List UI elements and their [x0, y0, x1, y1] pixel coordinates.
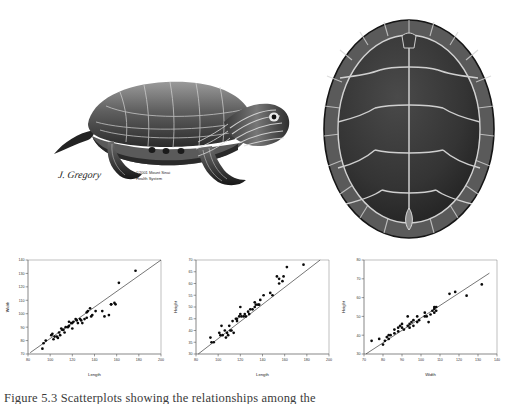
scatterplot-width-vs-length: 7080901001101201301408010012014016018020… — [2, 252, 169, 378]
data-point — [218, 332, 221, 335]
x-tick-label: 120 — [237, 358, 243, 362]
data-point — [403, 328, 406, 331]
data-point — [393, 332, 396, 335]
data-point — [52, 338, 55, 341]
data-point — [57, 337, 60, 340]
data-point — [227, 334, 230, 337]
y-tick-label: 45 — [188, 317, 192, 321]
y-tick-label: 90 — [20, 326, 24, 330]
data-point — [427, 321, 430, 324]
y-tick-label: 120 — [18, 285, 24, 289]
x-tick-label: 100 — [418, 358, 424, 362]
data-point — [103, 315, 106, 318]
data-point — [281, 280, 284, 283]
data-point — [85, 316, 88, 319]
x-tick-label: 70 — [362, 358, 366, 362]
x-tick-label: 140 — [494, 358, 500, 362]
scatter-svg: 30354045505560657080100120140160180200Le… — [170, 252, 337, 378]
data-point — [429, 313, 432, 316]
illustration-band: J. Gregory ©2001 Mount Sinai Health Syst… — [0, 0, 507, 250]
data-point — [118, 281, 121, 284]
data-point — [226, 332, 229, 335]
x-axis-title: Length — [88, 372, 101, 377]
data-point — [51, 333, 54, 336]
y-tick-label: 55 — [188, 294, 192, 298]
x-tick-label: 180 — [136, 358, 142, 362]
x-tick-label: 160 — [114, 358, 120, 362]
y-axis-title: Width — [5, 301, 10, 312]
x-tick-label: 100 — [47, 358, 53, 362]
data-point — [248, 313, 251, 316]
y-tick-label: 70 — [20, 352, 24, 356]
data-point — [401, 323, 404, 326]
data-point — [80, 319, 83, 322]
y-tick-label: 65 — [188, 270, 192, 274]
data-point — [454, 291, 457, 294]
data-point — [245, 315, 248, 318]
data-point — [89, 307, 92, 310]
artist-signature: J. Gregory — [57, 169, 102, 180]
data-point — [384, 339, 387, 342]
y-tick-label: 50 — [356, 315, 360, 319]
data-point — [418, 319, 421, 322]
painted-turtle-lateral-illustration: J. Gregory ©2001 Mount Sinai Health Syst… — [48, 62, 293, 192]
data-point — [58, 331, 61, 334]
data-point — [387, 338, 390, 341]
data-point — [101, 310, 104, 313]
data-point — [94, 310, 97, 313]
data-point — [253, 301, 256, 304]
data-point — [276, 275, 279, 278]
scatter-svg: 7080901001101201301408010012014016018020… — [2, 252, 169, 378]
y-tick-label: 60 — [356, 296, 360, 300]
figure-caption: Figure 5.3 Scatterplots showing the rela… — [4, 391, 504, 404]
y-tick-label: 30 — [188, 352, 192, 356]
data-point — [236, 320, 239, 323]
y-tick-label: 40 — [188, 329, 192, 333]
data-point — [423, 311, 426, 314]
regression-line — [198, 260, 320, 354]
data-point — [282, 275, 285, 278]
x-tick-label: 180 — [304, 358, 310, 362]
data-point — [412, 324, 415, 327]
scatterplot-height-vs-length: 30354045505560657080100120140160180200Le… — [170, 252, 337, 378]
data-point — [71, 327, 74, 330]
data-point — [425, 315, 428, 318]
turtle-carapace-dorsal-illustration — [322, 18, 497, 240]
x-tick-label: 80 — [26, 358, 30, 362]
data-point — [370, 339, 373, 342]
data-point — [247, 310, 250, 313]
data-point — [251, 308, 254, 311]
data-point — [393, 328, 396, 331]
data-point — [269, 292, 272, 295]
data-point — [262, 294, 265, 297]
data-point — [286, 266, 289, 269]
data-point — [114, 303, 117, 306]
data-point — [412, 319, 415, 322]
y-tick-label: 30 — [356, 352, 360, 356]
data-point — [378, 338, 381, 341]
y-tick-label: 50 — [188, 305, 192, 309]
data-point — [416, 315, 419, 318]
x-tick-label: 90 — [400, 358, 404, 362]
x-tick-label: 120 — [456, 358, 462, 362]
y-tick-label: 40 — [356, 334, 360, 338]
data-point — [220, 324, 223, 327]
data-point — [59, 334, 62, 337]
x-tick-label: 130 — [475, 358, 481, 362]
x-axis-title: Length — [256, 372, 269, 377]
x-tick-label: 100 — [215, 358, 221, 362]
y-tick-label: 70 — [188, 258, 192, 262]
x-tick-label: 120 — [69, 358, 75, 362]
watermark-line-2: Health System — [136, 176, 163, 181]
scatterplot-height-vs-width: 304050607080708090100110120130140WidthHe… — [338, 252, 505, 378]
data-point — [223, 329, 226, 332]
data-point — [278, 277, 281, 280]
data-point — [435, 306, 438, 309]
data-point — [480, 283, 483, 286]
data-point — [209, 336, 212, 339]
data-point — [232, 332, 235, 335]
data-point — [278, 282, 281, 285]
data-point — [239, 313, 242, 316]
data-point — [231, 320, 234, 323]
x-axis-title: Width — [425, 372, 436, 377]
